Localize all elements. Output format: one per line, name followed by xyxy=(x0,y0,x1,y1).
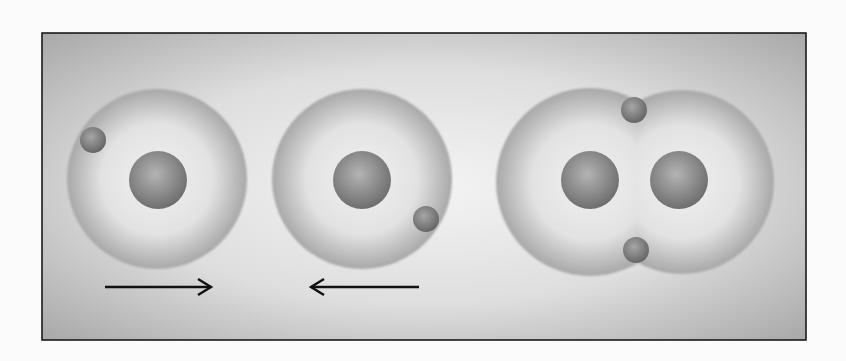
hydrogen-molecule xyxy=(496,88,774,276)
hydrogen-atom-left xyxy=(67,89,247,269)
nucleus-right xyxy=(333,151,391,209)
shared-electron-top xyxy=(621,97,647,123)
electron-right xyxy=(413,206,439,232)
nucleus-molecule-left xyxy=(561,151,619,209)
nucleus-molecule-right xyxy=(650,151,708,209)
diagram-canvas xyxy=(0,0,846,361)
diagram-frame xyxy=(42,33,806,340)
electron-left xyxy=(80,127,106,153)
hydrogen-atom-right xyxy=(272,89,452,269)
shared-electron-bottom xyxy=(623,237,649,263)
nucleus-left xyxy=(129,151,187,209)
